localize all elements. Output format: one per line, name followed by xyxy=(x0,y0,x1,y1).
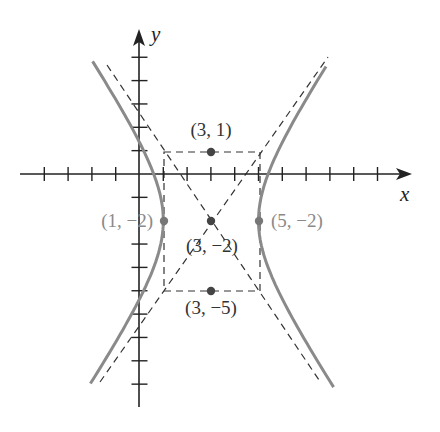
point-right-vertex xyxy=(255,217,263,225)
hyperbola-diagram: (3, 1) (3, −2) (1, −2) (5, −2) (3, −5) x… xyxy=(0,0,440,432)
y-axis-label: y xyxy=(149,22,161,46)
label-left-vertex: (1, −2) xyxy=(101,210,153,232)
label-center: (3, −2) xyxy=(186,235,238,257)
point-left-vertex xyxy=(160,217,168,225)
point-top xyxy=(207,148,215,156)
label-bottom: (3, −5) xyxy=(185,297,237,319)
label-top: (3, 1) xyxy=(190,119,231,141)
label-right-vertex: (5, −2) xyxy=(271,210,323,232)
point-center xyxy=(207,217,215,225)
x-axis-label: x xyxy=(399,182,410,206)
point-bottom xyxy=(207,287,215,295)
